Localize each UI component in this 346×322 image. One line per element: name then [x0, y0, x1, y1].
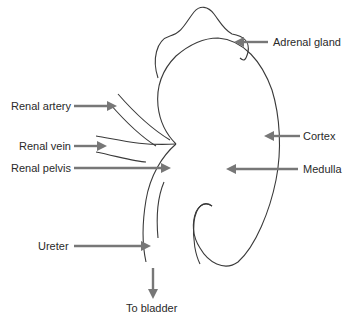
renal-artery-vessel [118, 94, 170, 140]
renal-vein-vessel-2 [96, 152, 146, 162]
arrow-renal-pelvis [74, 163, 171, 173]
arrow-renal-artery [74, 101, 117, 111]
arrow-cortex [264, 131, 300, 141]
arrow-adrenal-gland [234, 37, 268, 47]
label-to-bladder: To bladder [126, 302, 177, 315]
label-renal-artery: Renal artery [11, 100, 71, 113]
label-renal-vein: Renal vein [19, 140, 71, 153]
arrow-medulla [226, 164, 298, 174]
arrow-renal-vein [74, 141, 107, 151]
renal-pelvis-curve [193, 204, 212, 264]
label-ureter: Ureter [38, 240, 69, 253]
ureter-right-wall [157, 182, 164, 238]
label-adrenal-gland: Adrenal gland [273, 36, 341, 49]
kidney-outline [158, 38, 280, 266]
label-renal-pelvis: Renal pelvis [11, 162, 71, 175]
renal-vein-vessel [96, 136, 176, 144]
ureter-left-wall [143, 144, 176, 262]
arrow-ureter [74, 241, 151, 251]
label-medulla: Medulla [303, 163, 342, 176]
arrow-to-bladder [148, 268, 158, 299]
label-cortex: Cortex [303, 130, 335, 143]
